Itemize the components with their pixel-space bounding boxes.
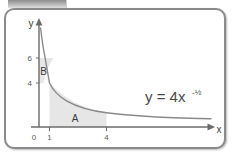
y-axis-arrowhead: [36, 18, 43, 26]
x-axis-label: x: [217, 124, 222, 135]
graph-plot: 6 4 0 1 4 y x B A y = 4x -½: [6, 10, 224, 147]
y-tick-label-6: 6: [28, 54, 33, 63]
region-a-label: A: [72, 113, 79, 124]
equation-exponent-label: -½: [192, 88, 202, 97]
y-tick-label-4: 4: [28, 79, 33, 88]
equation-label: y = 4x: [145, 88, 186, 105]
region-b-label: B: [40, 66, 47, 77]
x-axis-arrowhead: [208, 124, 216, 131]
x-tick-label-1: 1: [47, 133, 52, 142]
x-tick-label-4: 4: [104, 133, 109, 142]
decorative-tab-strip: [8, 0, 67, 8]
figure-frame: 6 4 0 1 4 y x B A y = 4x -½: [4, 8, 226, 149]
x-tick-label-origin: 0: [32, 133, 37, 142]
y-axis-label: y: [29, 18, 34, 29]
